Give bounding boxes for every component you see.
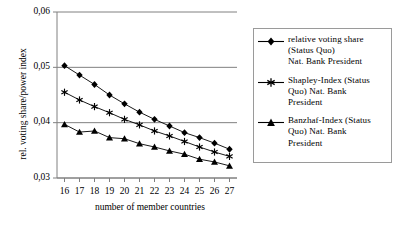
diamond-data-marker bbox=[211, 140, 217, 147]
legend-label-relative-voting-share: relative voting share (Status Quo) Nat. … bbox=[288, 34, 364, 68]
legend-item-relative-voting-share[interactable]: relative voting share (Status Quo) Nat. … bbox=[258, 34, 387, 68]
y-tick-label: 0,04 bbox=[16, 116, 50, 126]
x-tick-label: 26 bbox=[207, 186, 223, 196]
star-data-marker bbox=[106, 109, 112, 116]
star-data-marker bbox=[91, 103, 97, 110]
diamond-marker-icon bbox=[258, 35, 284, 48]
triangle-data-marker bbox=[196, 156, 203, 162]
legend-item-banzhaf-index[interactable]: Banzhaf-Index (Status Quo) Nat. Bank Pre… bbox=[258, 115, 387, 149]
x-tick-label: 17 bbox=[72, 186, 88, 196]
x-tick-label: 25 bbox=[192, 186, 208, 196]
x-tick-label: 23 bbox=[162, 186, 178, 196]
diamond-data-marker bbox=[121, 100, 127, 107]
triangle-data-marker bbox=[61, 121, 68, 127]
star-data-marker bbox=[226, 153, 232, 160]
star-data-marker bbox=[166, 132, 172, 139]
diamond-data-marker bbox=[76, 72, 82, 79]
star-data-marker bbox=[181, 138, 187, 145]
x-tick-label: 24 bbox=[177, 186, 193, 196]
triangle-marker-icon bbox=[258, 116, 284, 129]
y-axis-title: rel. voting share/power index bbox=[18, 29, 28, 179]
star-data-marker bbox=[76, 96, 82, 103]
diamond-data-marker bbox=[106, 92, 112, 99]
diamond-data-marker bbox=[151, 116, 157, 123]
y-tick-label: 0,03 bbox=[16, 172, 50, 182]
triangle-data-marker bbox=[91, 128, 98, 134]
diamond-data-marker bbox=[61, 62, 67, 69]
y-tick-label: 0,05 bbox=[16, 61, 50, 71]
x-tick-label: 20 bbox=[117, 186, 133, 196]
triangle-data-marker bbox=[106, 134, 113, 140]
triangle-data-marker bbox=[136, 140, 143, 146]
chart-legend: relative voting share (Status Quo) Nat. … bbox=[253, 28, 392, 163]
diamond-data-marker bbox=[226, 146, 232, 153]
x-tick-label: 22 bbox=[147, 186, 163, 196]
legend-item-shapley-index[interactable]: Shapley-Index (Status Quo) Nat. Bank Pre… bbox=[258, 75, 387, 109]
star-data-marker bbox=[61, 89, 67, 96]
star-data-marker bbox=[211, 148, 217, 155]
y-tick-label: 0,06 bbox=[16, 6, 50, 16]
series-star bbox=[61, 89, 232, 160]
x-tick-label: 19 bbox=[102, 186, 118, 196]
x-tick-label: 21 bbox=[132, 186, 148, 196]
x-tick-label: 18 bbox=[87, 186, 103, 196]
star-data-marker bbox=[121, 116, 127, 123]
x-tick-label: 16 bbox=[57, 186, 73, 196]
legend-label-shapley-index: Shapley-Index (Status Quo) Nat. Bank Pre… bbox=[288, 75, 370, 109]
star-marker-icon bbox=[258, 76, 284, 89]
series-diamond bbox=[61, 62, 232, 152]
diamond-data-marker bbox=[181, 129, 187, 136]
chart-container: rel. voting share/power index number of … bbox=[0, 0, 398, 225]
legend-label-banzhaf-index: Banzhaf-Index (Status Quo) Nat. Bank Pre… bbox=[288, 115, 371, 149]
x-axis-title: number of member countries bbox=[55, 202, 245, 212]
diamond-data-marker bbox=[196, 134, 202, 141]
x-tick-label: 27 bbox=[222, 186, 238, 196]
star-data-marker bbox=[151, 127, 157, 134]
diamond-data-marker bbox=[136, 109, 142, 116]
star-data-marker bbox=[196, 143, 202, 150]
diamond-data-marker bbox=[91, 81, 97, 88]
diamond-data-marker bbox=[166, 123, 172, 130]
